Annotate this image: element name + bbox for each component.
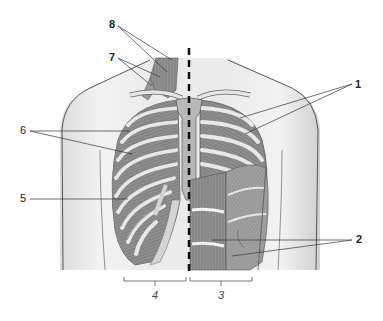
thorax-anatomy-figure: 8 7 6 5 1 2 4 3: [0, 0, 383, 321]
bracket-label-3: 3: [218, 290, 224, 301]
label-1: 1: [355, 79, 361, 90]
label-6: 6: [20, 125, 26, 136]
bracket-4: [124, 277, 186, 286]
label-7: 7: [109, 52, 115, 63]
label-5: 5: [20, 193, 26, 204]
rectus-abdominis: [190, 172, 226, 270]
bracket-label-4: 4: [152, 290, 158, 301]
bracket-3: [190, 277, 252, 286]
label-8: 8: [109, 19, 115, 30]
label-2: 2: [356, 234, 362, 245]
anatomy-illustration: [0, 0, 383, 321]
